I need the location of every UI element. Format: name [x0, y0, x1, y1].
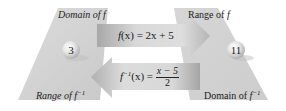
fn-rhs: = 2x + 5 [134, 29, 174, 41]
forward-function-equation: f(x) = 2x + 5 [118, 30, 174, 41]
label-fn: f [227, 9, 230, 20]
label-fn: f [103, 9, 106, 20]
range-of-f-inverse-label: Range of f−1 [36, 90, 85, 101]
fn-arg: (x) = [131, 70, 156, 82]
domain-of-f-inverse-label: Domain of f−1 [204, 90, 261, 101]
label-text: Domain of [58, 9, 103, 20]
fn-arg: (x) [121, 29, 134, 41]
label-text: Range of [188, 9, 227, 20]
function-inverse-diagram: Domain of f Range of f−1 Range of f Doma… [0, 0, 286, 111]
label-text: Domain of [204, 90, 250, 101]
element-value-3: 3 [61, 40, 81, 60]
label-sup: −1 [77, 89, 85, 97]
fraction: x − 52 [156, 66, 179, 88]
denominator: 2 [156, 78, 179, 89]
numerator: x − 5 [156, 66, 179, 78]
label-text: Range of [36, 90, 74, 101]
element-value-11: 11 [226, 40, 246, 60]
domain-of-f-label: Domain of f [58, 10, 106, 20]
label-sup: −1 [252, 89, 260, 97]
range-of-f-label: Range of f [188, 10, 230, 20]
inverse-function-equation: f−1(x) = x − 52 [120, 66, 179, 88]
